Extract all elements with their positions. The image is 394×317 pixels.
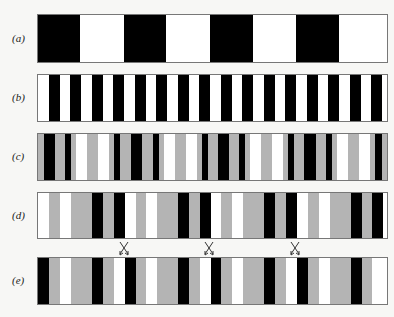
black-stripe [221,75,232,121]
black-stripe [297,258,308,304]
black-stripe [328,75,339,121]
white-stripe [372,258,383,304]
white-stripe [125,193,136,238]
white-stripe [164,134,175,180]
black-stripe [307,75,318,121]
gray-stripe [208,134,218,180]
white-stripe [60,193,71,238]
gray-stripe [120,134,131,180]
gray-stripe [316,134,326,180]
white-stripe [186,134,197,180]
black-stripe [264,258,275,304]
white-stripe [383,258,388,304]
gray-stripe [275,193,286,238]
black-stripe [135,75,146,121]
gray-stripe [221,193,232,238]
black-stripe [178,75,189,121]
gray-stripe [348,134,359,180]
white-stripe [146,258,157,304]
gray-stripe [49,258,60,304]
black-stripe [375,134,382,180]
gray-stripe [136,193,146,238]
gray-stripe [157,258,178,304]
stripe-bar [37,192,388,239]
black-stripe [242,75,253,121]
stripe-bar [37,14,388,63]
row-label: (c) [12,150,24,162]
stripe-bar [37,74,388,122]
gray-stripe [175,134,186,180]
white-stripe [98,134,109,180]
gray-stripe [362,193,372,238]
black-stripe [218,134,229,180]
black-stripe [296,15,339,62]
pattern-row-d: (d) [0,192,394,239]
black-stripe [131,134,142,180]
white-stripe [211,193,221,238]
white-stripe [114,258,125,304]
white-stripe [297,193,308,238]
pattern-row-e: (e) [0,257,394,305]
black-stripe [264,75,275,121]
white-stripe [359,134,370,180]
white-stripe [232,258,243,304]
white-stripe [383,193,388,238]
gray-stripe [136,258,146,304]
black-stripe [350,75,361,121]
gray-stripe [189,258,200,304]
black-stripe [156,75,167,121]
black-stripe [285,75,296,121]
gray-stripe [55,134,65,180]
black-stripe [70,75,81,121]
white-stripe [319,258,330,304]
white-stripe [319,193,330,238]
gray-stripe [362,258,372,304]
black-stripe [92,193,103,238]
pattern-row-b: (b) [0,74,394,122]
gray-stripe [308,258,319,304]
white-stripe [272,134,283,180]
white-stripe [232,193,243,238]
row-label: (a) [12,32,25,44]
black-stripe [211,258,221,304]
white-stripe [60,258,71,304]
gray-stripe [261,134,272,180]
gray-stripe [330,193,351,238]
black-stripe [178,193,189,238]
black-stripe [286,193,297,238]
row-label: (d) [12,209,25,221]
black-stripe [113,75,124,121]
swap-arrows-icon [288,241,302,257]
gray-stripe [308,193,319,238]
gray-stripe [71,258,92,304]
gray-stripe [382,134,388,180]
white-stripe [250,134,261,180]
gray-stripe [229,134,239,180]
gray-stripe [157,193,178,238]
black-stripe [178,258,189,304]
black-stripe [351,193,362,238]
gray-stripe [103,258,114,304]
black-stripe [372,193,383,238]
black-stripe [210,15,253,62]
gray-stripe [294,134,304,180]
black-stripe [125,258,136,304]
black-stripe [114,193,125,238]
stripe-bar [37,133,388,181]
black-stripe [351,258,362,304]
black-stripe [44,134,55,180]
row-label: (e) [12,274,24,286]
black-stripe [92,258,103,304]
white-stripe [76,134,87,180]
swap-arrows-icon [202,241,216,257]
white-stripe [146,193,157,238]
stripe-bar [37,257,388,305]
gray-stripe [142,134,153,180]
black-stripe [304,134,316,180]
white-stripe [38,193,49,238]
pattern-row-c: (c) [0,133,394,181]
black-stripe [49,75,60,121]
gray-stripe [243,258,264,304]
black-stripe [38,15,80,62]
gray-stripe [103,193,114,238]
